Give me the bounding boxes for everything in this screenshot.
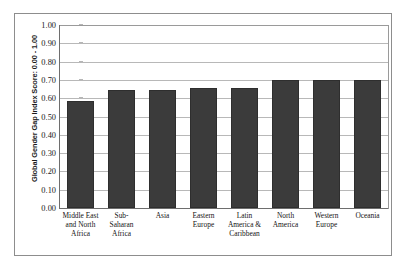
y-tick-label: 0.00 — [41, 204, 56, 213]
x-axis-label-line: Latin — [224, 211, 265, 220]
plot-right-edge — [388, 25, 389, 209]
y-tick-label: 0.70 — [41, 75, 56, 84]
bar — [231, 88, 258, 208]
bar — [272, 80, 299, 208]
gridline-0.00 — [60, 208, 388, 209]
x-axis-category-labels: Middle Eastand NorthAfricaSub-SaharanAfr… — [60, 211, 388, 255]
x-axis-label-line: Caribbean — [224, 229, 265, 238]
y-tick-label: 1.00 — [41, 21, 56, 30]
y-tick-label: 0.60 — [41, 94, 56, 103]
x-axis-label: Asia — [142, 211, 183, 220]
x-axis-label: Sub-SaharanAfrica — [101, 211, 142, 239]
bar — [67, 101, 94, 208]
y-tick-label: 0.80 — [41, 57, 56, 66]
x-axis-label-line: Western — [306, 211, 347, 220]
x-axis-label: WesternEurope — [306, 211, 347, 229]
x-axis-label: EasternEurope — [183, 211, 224, 229]
chart-figure: Global Gender Gap Index Score: 0.00 - 1.… — [0, 0, 406, 274]
x-axis-label-line: Oceania — [347, 211, 388, 220]
x-axis-label-line: Asia — [142, 211, 183, 220]
x-axis-label: Oceania — [347, 211, 388, 220]
bar — [190, 88, 217, 208]
y-tick-label: 0.90 — [41, 39, 56, 48]
x-axis-label-line: Africa — [60, 229, 101, 238]
plot-area — [60, 25, 388, 208]
x-axis-label-line: America & — [224, 220, 265, 229]
x-axis-label-line: America — [265, 220, 306, 229]
bar-series — [60, 25, 388, 208]
x-axis-label-line: Sub- — [101, 211, 142, 220]
x-axis-label-line: Eastern — [183, 211, 224, 220]
y-axis-tick-labels: 0.000.100.200.300.400.500.600.700.800.90… — [24, 25, 58, 208]
x-axis-label-line: North — [265, 211, 306, 220]
bar — [108, 90, 135, 208]
y-tick-label: 0.10 — [41, 185, 56, 194]
x-axis-label-line: Saharan — [101, 220, 142, 229]
x-axis-label-line: Europe — [183, 220, 224, 229]
y-tick-label: 0.40 — [41, 130, 56, 139]
x-axis-label: NorthAmerica — [265, 211, 306, 229]
bar — [313, 80, 340, 208]
y-tick-label: 0.50 — [41, 112, 56, 121]
x-axis-label-line: and North — [60, 220, 101, 229]
x-axis-label: LatinAmerica &Caribbean — [224, 211, 265, 239]
x-axis-label-line: Middle East — [60, 211, 101, 220]
bar — [149, 90, 176, 208]
x-axis-label-line: Europe — [306, 220, 347, 229]
y-tick-label: 0.20 — [41, 167, 56, 176]
y-tick-label: 0.30 — [41, 149, 56, 158]
x-axis-label-line: Africa — [101, 229, 142, 238]
bar — [354, 80, 381, 208]
x-axis-label: Middle Eastand NorthAfrica — [60, 211, 101, 239]
